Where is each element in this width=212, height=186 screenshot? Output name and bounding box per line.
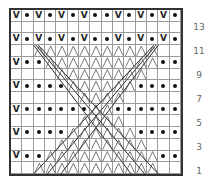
row-label-3: 3 <box>190 142 208 152</box>
row-label-11: 11 <box>190 46 208 56</box>
row-label-13: 13 <box>190 22 208 32</box>
cable-crossings <box>11 10 181 174</box>
knitting-chart: VVVVVVVVVVVVVVVVVVV <box>9 8 183 176</box>
row-label-9: 9 <box>190 70 208 80</box>
row-label-5: 5 <box>190 118 208 128</box>
row-label-1: 1 <box>190 166 208 176</box>
row-label-7: 7 <box>190 94 208 104</box>
